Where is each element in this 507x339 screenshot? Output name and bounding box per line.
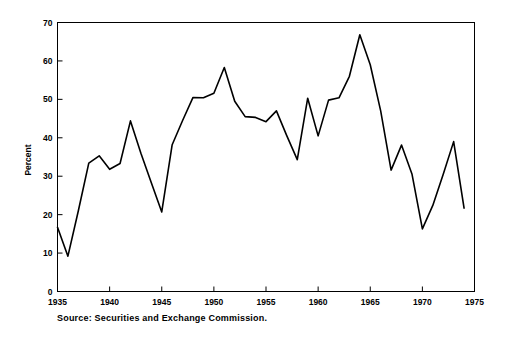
x-tick-label: 1940: [100, 297, 119, 307]
line-chart: 010203040506070 193519401945195019551960…: [0, 0, 507, 339]
x-tick-label: 1945: [152, 297, 171, 307]
y-tick-label: 10: [43, 248, 53, 258]
y-axis-title: Percent: [23, 144, 33, 175]
y-tick-label: 50: [43, 94, 53, 104]
chart-figure: 010203040506070 193519401945195019551960…: [0, 0, 507, 339]
y-tick-label: 0: [48, 287, 53, 297]
y-tick-label: 60: [43, 56, 53, 66]
data-series-line: [58, 35, 465, 256]
x-tick-label: 1935: [48, 297, 67, 307]
x-tick-label: 1955: [257, 297, 276, 307]
y-axis-ticks: [58, 23, 63, 292]
x-axis-tick-labels: 193519401945195019551960196519701975: [48, 297, 484, 307]
y-axis-tick-labels: 010203040506070: [43, 18, 53, 297]
x-tick-label: 1975: [465, 297, 484, 307]
y-tick-label: 30: [43, 171, 53, 181]
x-tick-label: 1960: [309, 297, 328, 307]
x-axis-ticks: [58, 287, 475, 292]
x-tick-label: 1970: [413, 297, 432, 307]
plot-area-border: [58, 23, 475, 292]
x-tick-label: 1965: [361, 297, 380, 307]
y-tick-label: 70: [43, 18, 53, 28]
y-tick-label: 20: [43, 210, 53, 220]
source-note: Source: Securities and Exchange Commissi…: [57, 313, 267, 323]
x-tick-label: 1950: [204, 297, 223, 307]
y-tick-label: 40: [43, 133, 53, 143]
